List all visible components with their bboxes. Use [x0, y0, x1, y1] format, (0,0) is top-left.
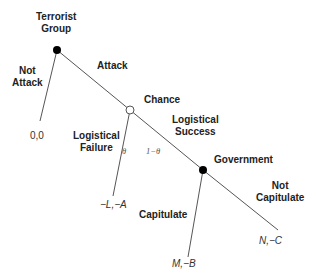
theta-probability: θ	[122, 146, 126, 156]
not-capitulate-line1: Not	[256, 180, 304, 192]
terrorist-label-line2: Group	[36, 23, 76, 35]
payoff-not-capitulate: N,−C	[259, 235, 282, 246]
failure-line2: Failure	[73, 142, 120, 154]
government-node	[199, 166, 207, 174]
logistical-success-label: Logistical Success	[172, 114, 219, 138]
failure-line1: Logistical	[73, 130, 120, 142]
payoff-not-attack: 0,0	[30, 130, 44, 141]
attack-label: Attack	[97, 60, 128, 72]
not-capitulate-line2: Capitulate	[256, 192, 304, 204]
payoff-capitulate: M,−B	[172, 258, 196, 269]
not-attack-line2: Attack	[12, 77, 43, 89]
not-attack-label: Not Attack	[12, 65, 43, 89]
government-label: Government	[214, 154, 273, 166]
success-line2: Success	[172, 126, 219, 138]
logistical-failure-label: Logistical Failure	[73, 130, 120, 154]
branch-capitulate	[188, 170, 203, 257]
not-attack-line1: Not	[12, 65, 43, 77]
branch-attack	[57, 50, 130, 110]
payoff-logistical-failure: −L,−A	[100, 199, 127, 210]
game-tree-lines	[0, 0, 316, 274]
capitulate-label: Capitulate	[139, 209, 187, 221]
chance-node	[126, 106, 134, 114]
terrorist-label: Terrorist Group	[36, 11, 76, 35]
not-capitulate-label: Not Capitulate	[256, 180, 304, 204]
terrorist-label-line1: Terrorist	[36, 11, 76, 23]
terrorist-node	[53, 46, 61, 54]
chance-label: Chance	[144, 94, 180, 106]
success-line1: Logistical	[172, 114, 219, 126]
one-minus-theta-probability: 1−θ	[146, 146, 160, 156]
